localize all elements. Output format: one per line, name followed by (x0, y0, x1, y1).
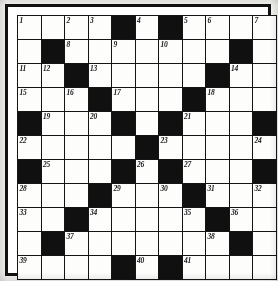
letter-square[interactable] (65, 112, 89, 136)
letter-square[interactable] (229, 256, 253, 280)
letter-square[interactable] (182, 232, 206, 256)
letter-square[interactable]: 17 (112, 88, 136, 112)
letter-square[interactable] (206, 112, 230, 136)
letter-square[interactable] (159, 64, 183, 88)
letter-square[interactable]: 3 (88, 16, 112, 40)
letter-square[interactable]: 6 (206, 16, 230, 40)
letter-square[interactable] (41, 256, 65, 280)
letter-square[interactable] (88, 160, 112, 184)
letter-square[interactable]: 31 (206, 184, 230, 208)
letter-square[interactable]: 15 (18, 88, 42, 112)
letter-square[interactable]: 11 (18, 64, 42, 88)
letter-square[interactable] (65, 136, 89, 160)
letter-square[interactable] (182, 136, 206, 160)
letter-square[interactable] (206, 40, 230, 64)
letter-square[interactable] (159, 88, 183, 112)
letter-square[interactable]: 8 (65, 40, 89, 64)
letter-square[interactable] (88, 40, 112, 64)
letter-square[interactable] (229, 88, 253, 112)
letter-square[interactable] (112, 64, 136, 88)
letter-square[interactable]: 19 (41, 112, 65, 136)
letter-square[interactable]: 4 (135, 16, 159, 40)
letter-square[interactable] (65, 256, 89, 280)
letter-square[interactable] (88, 232, 112, 256)
clue-number: 35 (184, 208, 191, 217)
letter-square[interactable] (206, 160, 230, 184)
letter-square[interactable] (135, 112, 159, 136)
letter-square[interactable]: 2 (65, 16, 89, 40)
crossword-grid-container[interactable]: 1234567891011121314151617181920212223242… (17, 15, 276, 280)
letter-square[interactable] (135, 64, 159, 88)
letter-square[interactable] (253, 232, 277, 256)
letter-square[interactable]: 12 (41, 64, 65, 88)
letter-square[interactable] (159, 232, 183, 256)
letter-square[interactable]: 23 (159, 136, 183, 160)
letter-square[interactable] (182, 64, 206, 88)
clue-number: 5 (184, 16, 187, 25)
letter-square[interactable] (41, 208, 65, 232)
letter-square[interactable] (253, 40, 277, 64)
letter-square[interactable] (112, 136, 136, 160)
letter-square[interactable]: 22 (18, 136, 42, 160)
letter-square[interactable]: 35 (182, 208, 206, 232)
letter-square[interactable] (229, 160, 253, 184)
letter-square[interactable]: 9 (112, 40, 136, 64)
letter-square[interactable] (41, 136, 65, 160)
letter-square[interactable]: 18 (206, 88, 230, 112)
letter-square[interactable] (135, 40, 159, 64)
letter-square[interactable]: 40 (135, 256, 159, 280)
letter-square[interactable] (229, 16, 253, 40)
letter-square[interactable]: 10 (159, 40, 183, 64)
letter-square[interactable]: 33 (18, 208, 42, 232)
letter-square[interactable]: 20 (88, 112, 112, 136)
letter-square[interactable] (182, 40, 206, 64)
letter-square[interactable] (41, 184, 65, 208)
letter-square[interactable] (18, 40, 42, 64)
letter-square[interactable] (41, 16, 65, 40)
letter-square[interactable] (229, 112, 253, 136)
letter-square[interactable]: 26 (135, 160, 159, 184)
letter-square[interactable] (253, 256, 277, 280)
letter-square[interactable] (135, 88, 159, 112)
letter-square[interactable] (206, 136, 230, 160)
letter-square[interactable]: 34 (88, 208, 112, 232)
letter-square[interactable] (112, 208, 136, 232)
letter-square[interactable] (112, 232, 136, 256)
letter-square[interactable] (135, 184, 159, 208)
letter-square[interactable]: 21 (182, 112, 206, 136)
letter-square[interactable] (206, 256, 230, 280)
letter-square[interactable] (253, 64, 277, 88)
letter-square[interactable] (229, 184, 253, 208)
letter-square[interactable] (135, 232, 159, 256)
letter-square[interactable] (41, 88, 65, 112)
letter-square[interactable]: 16 (65, 88, 89, 112)
letter-square[interactable]: 29 (112, 184, 136, 208)
letter-square[interactable]: 24 (253, 136, 277, 160)
letter-square[interactable]: 37 (65, 232, 89, 256)
letter-square[interactable]: 30 (159, 184, 183, 208)
letter-square[interactable] (88, 256, 112, 280)
letter-square[interactable] (88, 136, 112, 160)
letter-square[interactable] (229, 136, 253, 160)
letter-square[interactable] (65, 184, 89, 208)
letter-square[interactable]: 28 (18, 184, 42, 208)
letter-square[interactable]: 13 (88, 64, 112, 88)
letter-square[interactable] (65, 160, 89, 184)
letter-square[interactable] (253, 88, 277, 112)
letter-square[interactable]: 5 (182, 16, 206, 40)
crossword-grid[interactable]: 1234567891011121314151617181920212223242… (17, 15, 277, 280)
letter-square[interactable]: 41 (182, 256, 206, 280)
letter-square[interactable]: 14 (229, 64, 253, 88)
letter-square[interactable] (159, 208, 183, 232)
letter-square[interactable]: 36 (229, 208, 253, 232)
letter-square[interactable]: 27 (182, 160, 206, 184)
letter-square[interactable] (135, 208, 159, 232)
letter-square[interactable]: 7 (253, 16, 277, 40)
letter-square[interactable]: 32 (253, 184, 277, 208)
letter-square[interactable] (18, 232, 42, 256)
letter-square[interactable]: 1 (18, 16, 42, 40)
letter-square[interactable]: 25 (41, 160, 65, 184)
letter-square[interactable] (253, 208, 277, 232)
letter-square[interactable]: 38 (206, 232, 230, 256)
letter-square[interactable]: 39 (18, 256, 42, 280)
